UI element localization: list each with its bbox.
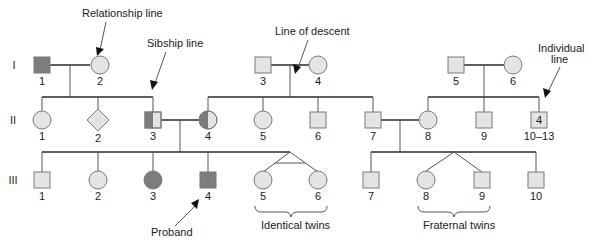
sibship-arrow-icon xyxy=(150,80,158,90)
individual-arrow-icon xyxy=(543,88,551,98)
individual-number-gen2-2: 2 xyxy=(95,132,101,144)
pedigree-svg: I II III xyxy=(0,0,589,246)
count-inside-symbol: 4 xyxy=(536,114,542,126)
individual-gen2-2-diamond-symbol xyxy=(87,109,109,131)
individual-gen2-9-square-symbol xyxy=(476,112,492,128)
relationship-arrow-shaft xyxy=(100,22,106,50)
fraternal-twins-label: Fraternal twins xyxy=(423,219,496,231)
individual-gen3-6-circle-symbol xyxy=(309,171,327,189)
individual-number-gen3-5: 5 xyxy=(260,190,266,202)
individual-gen2-7-square-symbol xyxy=(365,112,381,128)
individual-number-gen3-1: 1 xyxy=(39,190,45,202)
generation-label-II: II xyxy=(10,114,16,126)
connecting-lines xyxy=(42,65,539,172)
sibship-line-label: Sibship line xyxy=(147,37,203,49)
individual-number-gen2-8: 8 xyxy=(425,130,431,142)
individual-number-gen3-2: 2 xyxy=(95,190,101,202)
individual-number-gen1-4: 4 xyxy=(315,75,321,87)
individual-number-gen2-7: 7 xyxy=(370,130,376,142)
individual-gen3-2-circle-symbol xyxy=(89,171,107,189)
individual-gen2-8-circle-symbol xyxy=(419,111,437,129)
individual-number-gen3-9: 9 xyxy=(479,190,485,202)
individual-arrow-shaft xyxy=(548,67,560,92)
relationship-line-label: Relationship line xyxy=(82,7,163,19)
fraternal-twins-brace xyxy=(418,206,490,217)
generation-label-III: III xyxy=(8,174,17,186)
individual-gen3-3-circle-symbol xyxy=(144,171,162,189)
proband-arrow-icon xyxy=(191,199,199,209)
individual-number-gen1-1: 1 xyxy=(39,75,45,87)
individual-gen3-8-circle-symbol xyxy=(417,171,435,189)
individual-gen1-5-square-symbol xyxy=(448,57,464,73)
twin-line xyxy=(426,152,454,171)
individual-gen2-6-square-symbol xyxy=(310,112,326,128)
individual-gen3-4-square-symbol xyxy=(200,172,216,188)
individual-gen2-10–13-square-symbol: 4 xyxy=(531,112,547,128)
individual-gen2-1-circle-symbol xyxy=(33,111,51,129)
individual-number-gen1-5: 5 xyxy=(453,75,459,87)
proband-label: Proband xyxy=(151,226,193,238)
pedigree-chart: I II III xyxy=(0,0,589,246)
twin-line xyxy=(263,152,290,172)
individual-number-gen3-3: 3 xyxy=(150,190,156,202)
generation-label-I: I xyxy=(12,59,15,71)
individual-number-gen2-4: 4 xyxy=(205,130,211,142)
individual-gen2-4-circle-symbol xyxy=(199,111,217,129)
individual-number-gen2-5: 5 xyxy=(260,130,266,142)
individual-number-gen2-3: 3 xyxy=(150,130,156,142)
individual-number-gen3-7: 7 xyxy=(368,190,374,202)
individual-number-gen1-2: 2 xyxy=(97,75,103,87)
individual-number-gen2-6: 6 xyxy=(315,130,321,142)
identical-twins-label: Identical twins xyxy=(261,219,331,231)
individual-number-gen3-8: 8 xyxy=(423,190,429,202)
individual-gen2-3-square-symbol xyxy=(145,112,161,128)
individual-gen3-7-square-symbol xyxy=(363,172,379,188)
individual-line-label-2: line xyxy=(551,53,568,65)
individual-gen1-3-square-symbol xyxy=(255,57,271,73)
identical-twins-brace xyxy=(255,206,327,217)
individual-gen1-6-circle-symbol xyxy=(504,56,522,74)
line-of-descent-label: Line of descent xyxy=(275,25,350,37)
individual-number-gen2-10–13: 10–13 xyxy=(524,130,555,142)
individual-gen1-2-circle-symbol xyxy=(91,56,109,74)
individual-gen3-1-square-symbol xyxy=(34,172,50,188)
sibship-arrow-shaft xyxy=(155,52,166,83)
individual-gen3-5-circle-symbol xyxy=(254,171,272,189)
individual-number-gen2-9: 9 xyxy=(481,130,487,142)
proband-arrow-shaft xyxy=(175,205,196,226)
individual-gen2-5-circle-symbol xyxy=(254,111,272,129)
individual-number-gen1-3: 3 xyxy=(260,75,266,87)
individual-number-gen3-10: 10 xyxy=(530,190,542,202)
individual-gen3-9-square-symbol xyxy=(474,172,490,188)
twin-line xyxy=(454,152,482,172)
individual-number-gen2-1: 1 xyxy=(39,130,45,142)
individual-gen1-4-circle-symbol xyxy=(309,56,327,74)
individual-number-gen1-6: 6 xyxy=(510,75,516,87)
relationship-arrow-icon xyxy=(96,47,104,56)
twin-line xyxy=(290,152,318,172)
individual-gen1-1-square-symbol xyxy=(34,57,50,73)
individual-number-gen3-6: 6 xyxy=(315,190,321,202)
individual-number-gen3-4: 4 xyxy=(205,190,211,202)
individual-gen3-10-square-symbol xyxy=(528,172,544,188)
descent-arrow-shaft xyxy=(298,40,308,68)
